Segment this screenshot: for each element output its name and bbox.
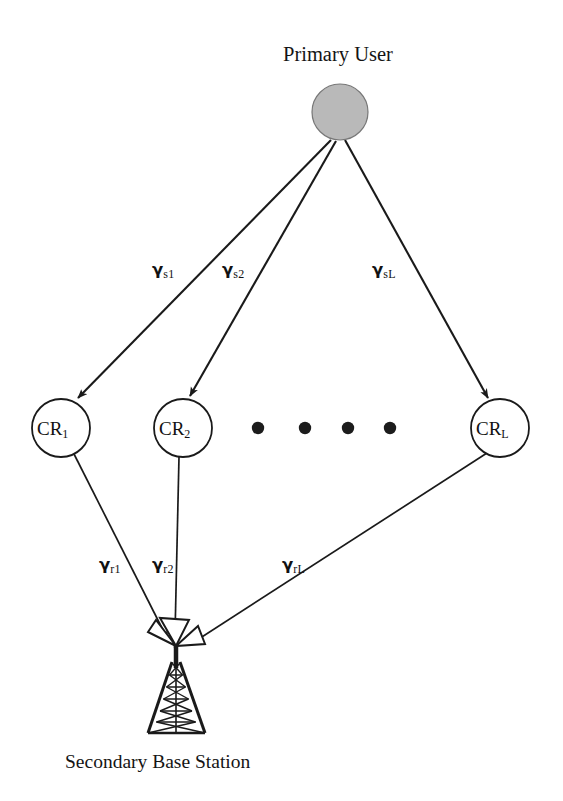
- link-label-gamma-r2: γr2: [152, 557, 174, 575]
- gamma-rl-symbol: γ: [282, 555, 293, 574]
- link-gamma-s2: [190, 141, 336, 396]
- base-station-icon: [148, 618, 205, 733]
- gamma-r2-subscript: r2: [163, 562, 174, 576]
- gamma-sl-symbol: γ: [372, 260, 383, 279]
- gamma-r1-symbol: γ: [99, 555, 110, 574]
- relay-label-cr2-prefix: CR: [159, 418, 184, 439]
- link-label-gamma-r1: γr1: [99, 557, 121, 575]
- source-to-relay-links: [78, 140, 488, 398]
- gamma-rl-subscript: rL: [293, 562, 305, 576]
- link-gamma-r1: [74, 454, 168, 640]
- gamma-r1-subscript: r1: [110, 562, 121, 576]
- link-gamma-sL: [345, 140, 488, 398]
- primary-user-node: [312, 84, 368, 140]
- link-gamma-s1: [78, 140, 331, 398]
- ellipsis-dot: [384, 422, 396, 434]
- gamma-sl-subscript: sL: [383, 267, 396, 281]
- link-gamma-rL: [191, 453, 487, 644]
- diagram-canvas: [0, 0, 563, 801]
- gamma-s2-subscript: s2: [233, 267, 244, 281]
- gamma-s2-symbol: γ: [222, 260, 233, 279]
- base-station-caption: Secondary Base Station: [65, 752, 250, 772]
- ellipsis-dot: [252, 422, 264, 434]
- relay-label-cr1-prefix: CR: [37, 418, 62, 439]
- gamma-s1-subscript: s1: [163, 267, 174, 281]
- gamma-r2-symbol: γ: [152, 555, 163, 574]
- relay-label-crl: CRL: [476, 419, 509, 440]
- relay-nodes: [32, 399, 529, 457]
- link-label-gamma-s1: γs1: [152, 262, 175, 280]
- relay-ellipsis-dots: [252, 422, 396, 434]
- link-label-gamma-s2: γs2: [222, 262, 245, 280]
- relay-to-base-links: [74, 453, 487, 644]
- relay-label-crl-prefix: CR: [476, 418, 501, 439]
- link-label-gamma-sl: γsL: [372, 262, 396, 280]
- relay-label-cr1: CR1: [37, 419, 69, 440]
- link-gamma-r2: [175, 457, 179, 635]
- ellipsis-dot: [299, 422, 311, 434]
- relay-label-cr1-subscript: 1: [62, 427, 68, 441]
- gamma-s1-symbol: γ: [152, 260, 163, 279]
- relay-label-cr2-subscript: 2: [184, 427, 190, 441]
- primary-user-circle: [312, 84, 368, 140]
- link-label-gamma-rl: γrL: [282, 557, 305, 575]
- ellipsis-dot: [342, 422, 354, 434]
- cognitive-radio-network-diagram: Primary User CR1 CR2 CRL γs1 γs2 γsL γr1…: [0, 0, 563, 801]
- primary-user-title: Primary User: [283, 44, 393, 65]
- relay-label-cr2: CR2: [159, 419, 191, 440]
- relay-label-crl-subscript: L: [501, 427, 509, 441]
